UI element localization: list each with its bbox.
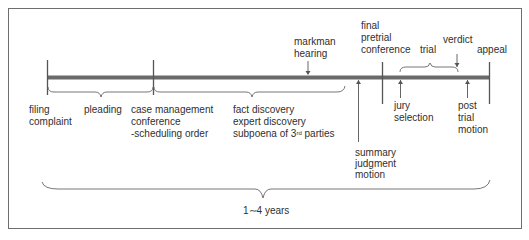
verdict-label: verdict — [443, 34, 472, 46]
pleading-label: pleading — [84, 104, 122, 116]
trial-brace — [400, 63, 458, 72]
final-pretrial-conference-label: final pretrial conference — [361, 20, 410, 56]
trial-label: trial — [420, 44, 436, 56]
discovery-brace — [154, 86, 345, 97]
markman-arrow-icon — [306, 71, 311, 75]
jury-selection-arrow-icon — [398, 80, 403, 84]
subpoena-line: subpoena of 3rd parties — [233, 128, 335, 140]
duration-brace — [42, 180, 490, 198]
discovery-label: fact discovery expert discovery subpoena… — [233, 104, 335, 140]
appeal-label: appeal — [477, 44, 507, 56]
filing-complaint-label: filing complaint — [29, 104, 72, 128]
jury-selection-label: jury selection — [394, 100, 433, 124]
case-management-label: case management conference -scheduling o… — [131, 104, 213, 140]
summary-judgment-arrow-icon — [356, 80, 361, 84]
timeline-bar — [47, 76, 489, 80]
summary-judgment-label: summary judgment motion — [355, 147, 396, 180]
duration-label: 1∼4 years — [243, 205, 289, 217]
verdict-arrow-icon — [455, 63, 460, 67]
post-trial-arrow-icon — [465, 80, 470, 84]
post-trial-motion-label: post trial motion — [458, 100, 488, 136]
pleading-brace — [48, 87, 153, 97]
markman-hearing-label: markman hearing — [294, 36, 336, 60]
